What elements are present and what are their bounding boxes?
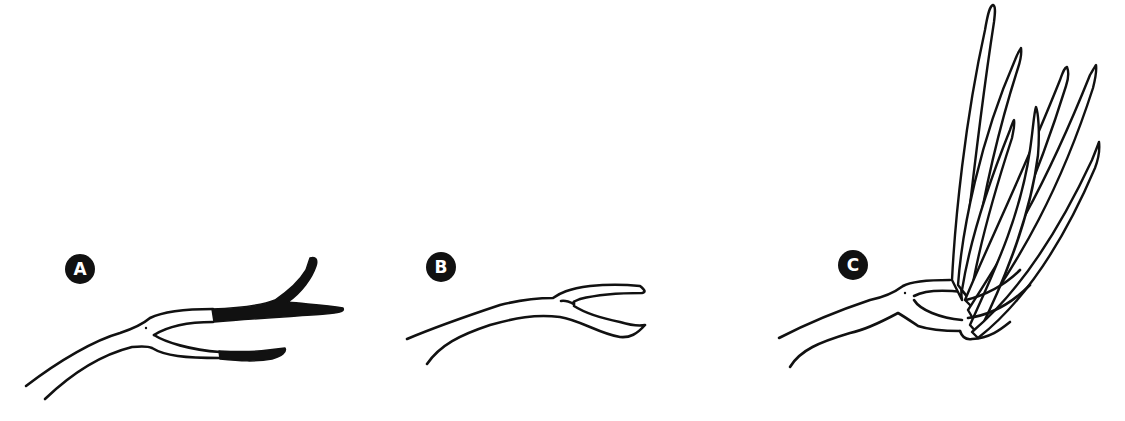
panel-a: A — [26, 254, 343, 399]
cut-section-lower — [219, 348, 285, 361]
diagram-canvas: A B C — [0, 0, 1125, 421]
panel-c-label-badge: C — [838, 250, 868, 280]
panel-b-label-badge: B — [426, 252, 456, 282]
cut-section-upper — [212, 257, 343, 322]
branch-b — [407, 285, 645, 364]
panel-b: B — [407, 252, 645, 364]
panel-b-label: B — [435, 257, 448, 277]
branch-c — [779, 5, 1099, 367]
panel-a-label: A — [73, 259, 87, 279]
panel-c: C — [779, 5, 1099, 367]
panel-a-label-badge: A — [65, 254, 95, 284]
panel-c-label: C — [847, 255, 859, 275]
